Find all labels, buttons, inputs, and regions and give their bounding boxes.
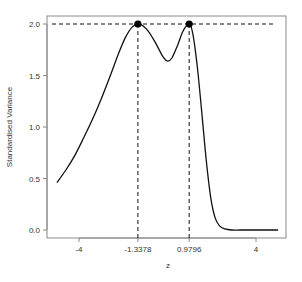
x-tick-label: -4 [75,245,83,254]
reference-lines [52,24,276,238]
x-tick-label: 4 [254,245,259,254]
x-tick-label: -1.3378 [124,245,152,254]
y-axis: 0.00.51.01.52.0 [29,20,47,235]
y-tick-label: 0.0 [29,226,41,235]
y-tick-label: 1.5 [29,72,41,81]
variance-curve [57,24,278,230]
maximum-point [186,20,193,27]
plot-box [47,16,286,238]
x-axis-label: z [166,261,170,270]
x-tick-label: 0.9796 [177,245,202,254]
maximum-point [134,20,141,27]
y-tick-label: 0.5 [29,175,41,184]
x-axis: -4-1.33780.97964 [75,238,258,254]
variance-chart: 0.00.51.01.52.0 -4-1.33780.97964 z Stand… [0,0,302,282]
y-tick-label: 1.0 [29,123,41,132]
y-tick-label: 2.0 [29,20,41,29]
y-axis-label: Standardised Variance [5,86,14,167]
